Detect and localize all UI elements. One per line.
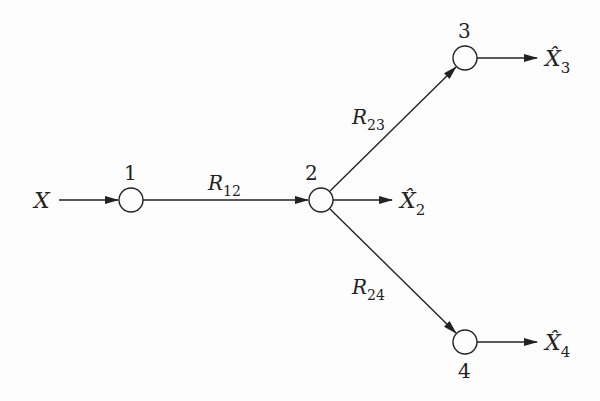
output-x2-label: X̂2 (398, 188, 425, 219)
source-label: X (32, 188, 51, 213)
edge-2-to-4 (330, 209, 456, 333)
node-3-label: 3 (458, 19, 471, 43)
node-1-label: 1 (124, 161, 137, 185)
output-x4-label: X̂4 (543, 330, 570, 361)
edge-label-r24: R24 (351, 275, 385, 303)
edge-2-to-3 (330, 67, 456, 191)
edge-label-r12: R12 (207, 171, 241, 199)
node-2-label: 2 (305, 161, 318, 185)
node-2 (309, 188, 333, 212)
edge-label-r23: R23 (351, 105, 385, 133)
network-diagram: X 1 R12 2 X̂2 R23 3 X̂3 R24 4 X̂4 (0, 0, 600, 401)
output-x3-label: X̂3 (543, 46, 570, 77)
node-4-label: 4 (458, 359, 471, 383)
node-1 (119, 188, 143, 212)
node-3 (453, 46, 477, 70)
node-4 (453, 330, 477, 354)
